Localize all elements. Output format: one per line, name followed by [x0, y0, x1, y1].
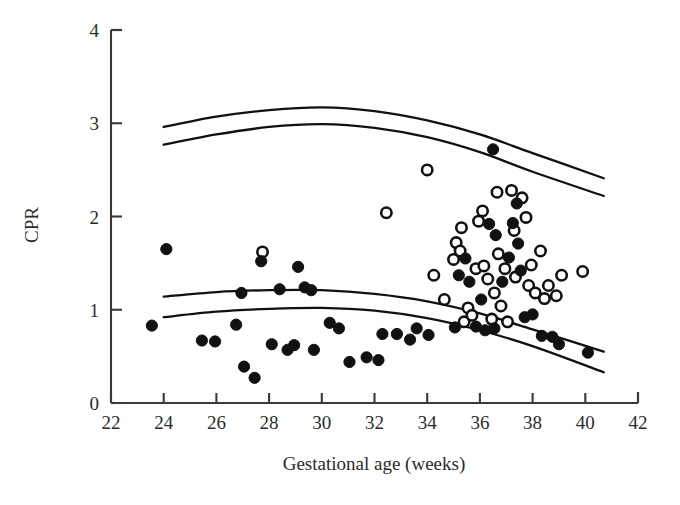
- data-point-open: [381, 208, 391, 218]
- data-point-filled: [256, 256, 267, 267]
- data-point-filled: [490, 230, 501, 241]
- data-point-filled: [404, 334, 415, 345]
- data-point-open: [500, 264, 510, 274]
- data-point-filled: [464, 276, 475, 287]
- data-point-filled: [460, 253, 471, 264]
- x-axis-tick-labels: 2224262830323436384042: [102, 412, 648, 433]
- data-point-open: [479, 261, 489, 271]
- data-point-filled: [161, 244, 172, 255]
- data-point-open: [502, 317, 512, 327]
- data-point-filled: [423, 329, 434, 340]
- x-tick-label: 30: [312, 412, 331, 433]
- y-tick-label: 0: [90, 393, 100, 414]
- data-point-open: [429, 270, 439, 280]
- y-tick-label: 4: [90, 20, 100, 41]
- data-point-filled: [292, 261, 303, 272]
- data-point-filled: [489, 323, 500, 334]
- data-point-filled: [266, 339, 277, 350]
- y-axis-ticks: [111, 30, 122, 403]
- data-point-filled: [484, 218, 495, 229]
- data-point-open: [496, 301, 506, 311]
- x-tick-label: 22: [102, 412, 121, 433]
- x-axis-title: Gestational age (weeks): [283, 453, 466, 475]
- data-point-filled: [513, 238, 524, 249]
- x-tick-label: 26: [207, 412, 226, 433]
- y-axis-title: CPR: [21, 207, 42, 243]
- data-point-open: [492, 187, 502, 197]
- data-point-filled: [476, 294, 487, 305]
- data-point-filled: [497, 276, 508, 287]
- x-tick-label: 42: [629, 412, 648, 433]
- data-point-filled: [231, 319, 242, 330]
- x-tick-label: 36: [470, 412, 489, 433]
- data-point-open: [506, 185, 516, 195]
- scatter-plot: 01234 2224262830323436384042 Gestational…: [0, 0, 680, 505]
- data-point-filled: [553, 339, 564, 350]
- data-point-filled: [449, 322, 460, 333]
- data-point-open: [456, 222, 466, 232]
- data-point-filled: [361, 352, 372, 363]
- data-point-open: [489, 288, 499, 298]
- data-point-filled: [487, 144, 498, 155]
- data-point-filled: [306, 285, 317, 296]
- data-point-open: [526, 260, 536, 270]
- data-point-open: [467, 310, 477, 320]
- data-point-filled: [511, 198, 522, 209]
- data-point-filled: [308, 344, 319, 355]
- data-point-open: [422, 165, 432, 175]
- data-point-open: [439, 294, 449, 304]
- data-point-open: [535, 246, 545, 256]
- data-point-filled: [536, 330, 547, 341]
- y-axis-tick-labels: 01234: [90, 20, 100, 414]
- data-point-filled: [411, 323, 422, 334]
- y-tick-label: 3: [90, 113, 100, 134]
- data-point-open: [539, 293, 549, 303]
- data-point-filled: [503, 252, 514, 263]
- chart-figure: 01234 2224262830323436384042 Gestational…: [0, 0, 680, 505]
- data-point-filled: [453, 270, 464, 281]
- data-point-filled: [527, 309, 538, 320]
- data-point-open: [477, 206, 487, 216]
- data-point-filled: [274, 284, 285, 295]
- data-point-filled: [249, 372, 260, 383]
- data-point-filled: [146, 320, 157, 331]
- x-tick-label: 40: [576, 412, 595, 433]
- open-circle-points: [257, 165, 588, 327]
- data-point-filled: [377, 328, 388, 339]
- x-tick-label: 28: [260, 412, 279, 433]
- data-point-filled: [582, 347, 593, 358]
- x-tick-label: 32: [365, 412, 384, 433]
- upper-outer-centile: [164, 107, 604, 178]
- x-tick-label: 24: [154, 412, 174, 433]
- x-axis-ticks: [111, 393, 638, 403]
- x-tick-label: 38: [523, 412, 542, 433]
- data-point-filled: [238, 361, 249, 372]
- upper-inner-centile: [164, 124, 604, 196]
- data-point-filled: [209, 336, 220, 347]
- data-point-filled: [391, 328, 402, 339]
- y-tick-label: 1: [90, 300, 100, 321]
- data-point-open: [577, 266, 587, 276]
- data-point-open: [521, 212, 531, 222]
- data-point-filled: [344, 356, 355, 367]
- y-tick-label: 2: [90, 207, 100, 228]
- data-point-filled: [515, 265, 526, 276]
- data-point-filled: [236, 287, 247, 298]
- x-tick-label: 34: [418, 412, 438, 433]
- data-point-filled: [196, 335, 207, 346]
- data-point-open: [473, 216, 483, 226]
- data-point-open: [483, 274, 493, 284]
- lower-inner-centile: [164, 290, 604, 352]
- data-point-filled: [289, 340, 300, 351]
- data-point-filled: [373, 355, 384, 366]
- data-point-open: [543, 280, 553, 290]
- data-point-open: [551, 291, 561, 301]
- data-point-filled: [333, 323, 344, 334]
- data-point-open: [493, 249, 503, 259]
- data-point-filled: [507, 217, 518, 228]
- data-point-open: [556, 270, 566, 280]
